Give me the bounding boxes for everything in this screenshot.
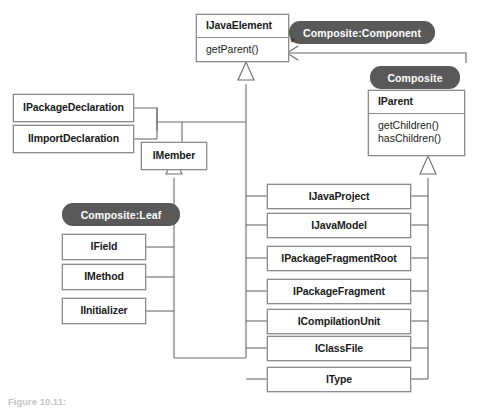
class-name-iparent: IParent bbox=[369, 91, 464, 114]
class-name-ijavaproject: IJavaProject bbox=[309, 191, 370, 203]
class-box-ifield: IField bbox=[62, 234, 146, 260]
link-parent-to-element bbox=[289, 53, 466, 63]
class-box-iparent: IParent getChildren()hasChildren() bbox=[368, 90, 465, 156]
class-name-imember: IMember bbox=[153, 150, 195, 162]
class-ops-iparent: getChildren()hasChildren() bbox=[369, 114, 464, 152]
class-box-ijavaelement: IJavaElement getParent() bbox=[196, 14, 289, 62]
class-name-ijavamodel: IJavaModel bbox=[311, 220, 367, 232]
class-box-iimportdeclaration: IImportDeclaration bbox=[13, 125, 134, 153]
badge-composite-label: Composite bbox=[387, 72, 442, 84]
class-name-iinitializer: IInitializer bbox=[80, 305, 127, 317]
class-box-iclassfile: IClassFile bbox=[267, 336, 411, 361]
class-name-ipackagefragment: IPackageFragment bbox=[293, 286, 385, 298]
class-name-ijavaelement: IJavaElement bbox=[197, 15, 288, 38]
badge-composite-leaf-label: Composite:Leaf bbox=[81, 209, 162, 221]
class-ops-ijavaelement: getParent() bbox=[197, 38, 288, 62]
class-box-itype: IType bbox=[267, 367, 411, 392]
class-box-ijavamodel: IJavaModel bbox=[267, 213, 411, 238]
class-box-ipackagefragment: IPackageFragment bbox=[267, 279, 411, 304]
class-name-iclassfile: IClassFile bbox=[315, 343, 363, 355]
class-ops-iparent-line1: getChildren() bbox=[378, 119, 439, 131]
class-name-ifield: IField bbox=[91, 241, 118, 253]
class-box-iinitializer: IInitializer bbox=[62, 298, 146, 324]
class-box-icompilationunit: ICompilationUnit bbox=[267, 309, 411, 334]
class-box-imember: IMember bbox=[141, 142, 207, 170]
generalization-triangle-iparent bbox=[420, 156, 436, 174]
class-name-ipackagedeclaration: IPackageDeclaration bbox=[23, 102, 124, 114]
multiplicity-star: * bbox=[290, 36, 295, 50]
badge-composite: Composite bbox=[370, 66, 460, 89]
generalization-triangle-ijavaelement bbox=[238, 62, 254, 80]
class-box-ipackagefragmentroot: IPackageFragmentRoot bbox=[267, 246, 411, 271]
class-box-ijavaproject: IJavaProject bbox=[267, 184, 411, 209]
class-name-imethod: IMethod bbox=[84, 271, 124, 283]
figure-caption: Figure 10.11: bbox=[8, 396, 66, 407]
class-name-ipackagefragmentroot: IPackageFragmentRoot bbox=[281, 253, 396, 265]
class-name-iimportdeclaration: IImportDeclaration bbox=[28, 133, 119, 145]
class-name-itype: IType bbox=[326, 374, 352, 386]
uml-class-diagram: Composite:Component Composite Composite:… bbox=[0, 0, 488, 408]
badge-composite-leaf: Composite:Leaf bbox=[62, 203, 180, 226]
class-ops-iparent-line2: hasChildren() bbox=[378, 132, 441, 144]
link-ipackagedeclaration bbox=[134, 108, 157, 131]
class-box-ipackagedeclaration: IPackageDeclaration bbox=[13, 94, 134, 122]
class-name-icompilationunit: ICompilationUnit bbox=[298, 316, 380, 328]
class-box-imethod: IMethod bbox=[62, 264, 146, 290]
badge-composite-component-label: Composite:Component bbox=[303, 27, 421, 39]
badge-composite-component: Composite:Component bbox=[289, 21, 435, 44]
figure-caption-text: Figure 10.11: bbox=[8, 396, 66, 407]
